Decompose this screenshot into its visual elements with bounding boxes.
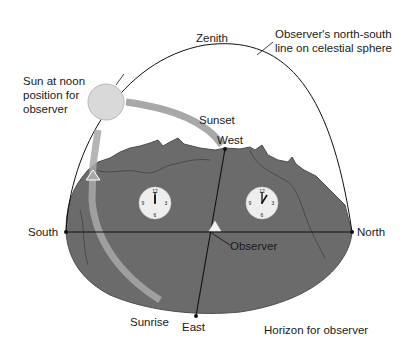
south-label: South [28, 225, 58, 239]
svg-text:9: 9 [249, 200, 252, 206]
sun-noon-label-2: position for [23, 88, 79, 102]
ns-line-label-2: line on celestial sphere [275, 41, 392, 55]
east-point [194, 314, 198, 318]
west-point [223, 147, 227, 151]
svg-text:6: 6 [154, 212, 157, 218]
svg-text:3: 3 [165, 200, 168, 206]
sunrise-label: Sunrise [130, 315, 169, 329]
north-point [350, 230, 354, 234]
one-oclock-clock: 12 3 6 9 [246, 187, 278, 219]
svg-text:6: 6 [261, 212, 264, 218]
observer-label: Observer [230, 239, 277, 253]
south-point [64, 230, 68, 234]
earth-horizon-disk [66, 138, 352, 313]
sun-leader [116, 74, 124, 85]
zenith-label: Zenith [196, 31, 228, 45]
sun-noon-label-3: observer [23, 102, 68, 116]
ns-leader [257, 42, 273, 55]
horizon-label: Horizon for observer [264, 323, 368, 337]
north-label: North [357, 225, 385, 239]
sun-noon-label-1: Sun at noon [23, 74, 85, 88]
ns-line-label-1: Observer's north-south [275, 27, 392, 41]
sunset-label: Sunset [199, 113, 235, 127]
svg-text:9: 9 [142, 200, 145, 206]
sun-icon [88, 84, 124, 120]
noon-clock: 12 3 6 9 [139, 187, 171, 219]
svg-text:3: 3 [272, 200, 275, 206]
east-label: East [182, 320, 205, 334]
west-label: West [217, 133, 243, 147]
